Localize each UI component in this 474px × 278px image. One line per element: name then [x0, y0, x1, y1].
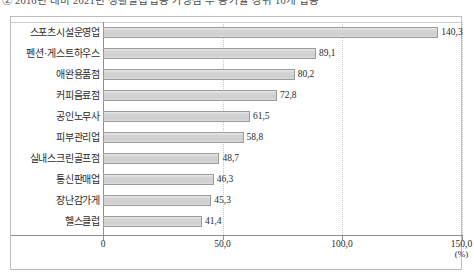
bar-row: 실내스크린골프점48,7 [0, 148, 462, 169]
bar [103, 132, 244, 143]
bar [103, 216, 202, 227]
bar [103, 90, 277, 101]
category-label-wrap: 실내스크린골프점 [8, 148, 100, 169]
category-label-wrap: 헬스클럽 [8, 211, 100, 232]
category-label: 장난감가게 [8, 190, 100, 211]
category-label: 피부관리업 [8, 127, 100, 148]
bar-value-label: 46,3 [217, 173, 234, 186]
category-label: 커피음료점 [8, 85, 100, 106]
x-tick-label: 0 [101, 239, 106, 249]
bar-value-label: 45,3 [214, 194, 231, 207]
bar [103, 69, 295, 80]
bar-value-label: 80,2 [298, 68, 315, 81]
category-label-wrap: 스포츠시설운영업 [8, 22, 100, 43]
category-label: 통신판매업 [8, 169, 100, 190]
category-label-wrap: 펜션·게스트하우스 [8, 43, 100, 64]
bar-row: 장난감가게45,3 [0, 190, 462, 211]
category-label-wrap: 공인노무사 [8, 106, 100, 127]
category-label: 스포츠시설운영업 [8, 22, 100, 43]
bar [103, 111, 250, 122]
bar-row: 헬스클럽41,4 [0, 211, 462, 232]
bar [103, 195, 211, 206]
bar [103, 48, 316, 59]
category-label: 애완용품점 [8, 64, 100, 85]
bar-row: 통신판매업46,3 [0, 169, 462, 190]
bar-value-label: 41,4 [205, 215, 222, 228]
bar-row: 펜션·게스트하우스89,1 [0, 43, 462, 64]
bar-value-label: 58,8 [247, 131, 264, 144]
x-tick-label: 100,0 [331, 239, 352, 249]
bar-value-label: 48,7 [222, 152, 239, 165]
category-label: 공인노무사 [8, 106, 100, 127]
figure-caption: ② 2016년 대비 2021년 생활밀접업종 가맹점 수 증가율 상위 10개… [2, 0, 472, 7]
bar-row: 커피음료점72,8 [0, 85, 462, 106]
bar [103, 27, 438, 38]
bar-value-label: 72,8 [280, 89, 297, 102]
x-axis-unit-label: (%) [455, 249, 469, 259]
bar [103, 153, 219, 164]
category-label: 실내스크린골프점 [8, 148, 100, 169]
category-label-wrap: 애완용품점 [8, 64, 100, 85]
x-axis-line [11, 235, 462, 236]
bar-row: 스포츠시설운영업140,3 [0, 22, 462, 43]
category-label-wrap: 통신판매업 [8, 169, 100, 190]
category-label: 펜션·게스트하우스 [8, 43, 100, 64]
bar-row: 피부관리업58,8 [0, 127, 462, 148]
category-label: 헬스클럽 [8, 211, 100, 232]
category-label-wrap: 커피음료점 [8, 85, 100, 106]
bar-row: 애완용품점80,2 [0, 64, 462, 85]
bar [103, 174, 214, 185]
x-tick-label: 150,0 [451, 239, 472, 249]
bar-value-label: 89,1 [319, 47, 336, 60]
category-label-wrap: 피부관리업 [8, 127, 100, 148]
bar-row: 공인노무사61,5 [0, 106, 462, 127]
x-tick-label: 50,0 [214, 239, 231, 249]
category-label-wrap: 장난감가게 [8, 190, 100, 211]
bar-value-label: 61,5 [253, 110, 270, 123]
bar-value-label: 140,3 [441, 26, 462, 39]
